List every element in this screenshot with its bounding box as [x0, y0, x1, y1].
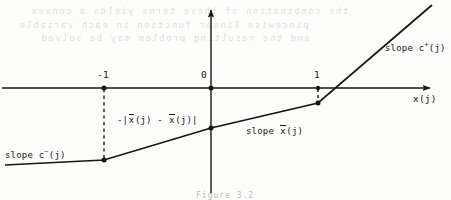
- slope-middle-symbol: x: [280, 127, 287, 136]
- gap-term-one-symbol: x: [128, 116, 135, 125]
- axis-point-minus-one: [102, 86, 107, 91]
- slope-middle-argument: (j): [286, 126, 303, 136]
- plot-canvas: [0, 0, 451, 200]
- slope-middle-label: slope x(j): [246, 127, 303, 136]
- gap-trail: |: [192, 115, 198, 125]
- slope-negative-label: slope c−(j): [5, 151, 66, 160]
- tick-label-minus-one: -1: [97, 70, 109, 80]
- gap-annotation-label: -|x(j) - x(j)|: [117, 116, 198, 125]
- tick-label-zero: 0: [201, 70, 207, 80]
- gap-lead: -|: [117, 115, 128, 125]
- axis-point-one: [316, 86, 320, 90]
- piecewise-linear-curve: [5, 5, 432, 165]
- curve-intercept-point: [209, 126, 214, 131]
- curve-kink-point-right: [316, 101, 321, 106]
- gap-term-two-argument: (j): [175, 115, 192, 125]
- slope-positive-prefix: slope: [385, 43, 413, 53]
- figure-caption: Figure 3.2: [196, 192, 254, 200]
- slope-middle-prefix: slope: [246, 126, 274, 136]
- axis-point-zero: [209, 86, 214, 91]
- slope-negative-argument: (j): [49, 150, 66, 160]
- x-axis-label: x(j): [413, 94, 437, 104]
- gap-term-two-symbol: x: [169, 116, 176, 125]
- slope-positive-argument: (j): [429, 43, 446, 53]
- curve-kink-point-left: [102, 158, 107, 163]
- slope-negative-prefix: slope: [5, 150, 33, 160]
- slope-positive-label: slope c+(j): [385, 44, 446, 53]
- tick-label-one: 1: [314, 70, 320, 80]
- figure-container: the combination of these terms yields a …: [0, 0, 451, 200]
- gap-term-one-argument: (j): [135, 115, 152, 125]
